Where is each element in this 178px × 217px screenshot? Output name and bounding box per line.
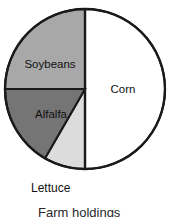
pie-label-lettuce: Lettuce <box>31 182 70 194</box>
chart-caption: Farm holdings <box>38 206 148 217</box>
pie-label-soybeans: Soybeans <box>24 58 75 70</box>
pie-chart-svg: Soybeans Alfalfa Corn <box>0 0 178 217</box>
pie-label-corn: Corn <box>111 83 136 95</box>
pie-chart-figure: Soybeans Alfalfa Corn Lettuce Farm holdi… <box>0 0 178 217</box>
pie-label-alfalfa: Alfalfa <box>35 108 68 120</box>
